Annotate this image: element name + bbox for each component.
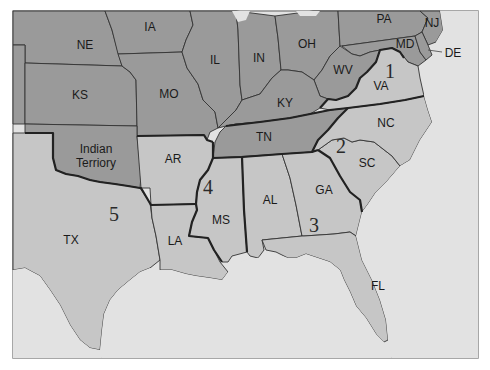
label-ne: NE (77, 38, 94, 52)
state-colorado-strip (13, 45, 25, 124)
state-nebraska (13, 11, 122, 66)
region-3-label: 3 (309, 214, 319, 236)
label-il: IL (210, 53, 220, 67)
label-la: LA (168, 234, 183, 248)
label-nj: NJ (425, 16, 440, 30)
label-ky: KY (277, 96, 293, 110)
lake-erie (296, 11, 320, 16)
label-ks: KS (72, 88, 88, 102)
label-ga: GA (315, 183, 332, 197)
label-al: AL (263, 193, 278, 207)
label-tn: TN (256, 130, 272, 144)
civil-war-south-map: NE IA IL IN OH PA NJ MD DE WV VA KS MO K… (0, 0, 490, 370)
region-5-label: 5 (109, 203, 119, 225)
label-ms: MS (212, 213, 230, 227)
label-ia: IA (144, 20, 155, 34)
label-fl: FL (371, 279, 385, 293)
label-md: MD (396, 37, 415, 51)
label-pa: PA (376, 12, 391, 26)
label-tx: TX (63, 233, 78, 247)
region-4-label: 4 (203, 176, 213, 198)
label-ar: AR (165, 152, 182, 166)
region-1-label: 1 (385, 60, 395, 82)
label-oh: OH (298, 37, 316, 51)
label-mo: MO (159, 87, 178, 101)
label-de: DE (445, 46, 462, 60)
label-sc: SC (359, 156, 376, 170)
label-nc: NC (377, 116, 395, 130)
label-indian-territory-line1: Indian (80, 142, 113, 156)
label-wv: WV (333, 63, 352, 77)
label-in: IN (253, 51, 265, 65)
label-indian-territory-line2: Terriory (76, 156, 116, 170)
region-2-label: 2 (336, 135, 346, 157)
